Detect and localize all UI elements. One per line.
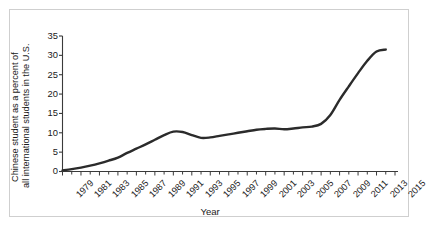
x-axis-tick-label: 2007: [332, 178, 354, 200]
x-axis-tick-label: 2011: [369, 178, 390, 199]
x-axis-tick-label: 1993: [203, 178, 225, 200]
x-axis-tick-label: 1997: [240, 178, 262, 200]
x-axis-tick-label: 2013: [388, 178, 410, 200]
x-axis-tick-label: 2001: [277, 178, 299, 200]
x-axis-tick-label: 1983: [110, 178, 132, 200]
x-axis-tick-label: 1995: [221, 178, 243, 200]
x-axis-tick-label: 1999: [258, 178, 280, 200]
x-axis-tick-label: 1987: [147, 178, 169, 200]
x-axis-tick-label: 2003: [295, 178, 317, 200]
x-axis-tick-label: 2015: [406, 178, 428, 200]
x-axis-tick-label: 1979: [73, 178, 95, 200]
x-axis-tick-label: 1991: [184, 178, 206, 200]
x-axis-tick-label: 1989: [166, 178, 188, 200]
x-axis-tick-label: 1985: [129, 178, 151, 200]
x-axis-tick-label: 2005: [314, 178, 336, 200]
x-axis-tick-label: 1981: [92, 178, 114, 200]
x-axis-tick-label: 2009: [351, 178, 373, 200]
x-axis-title: Year: [0, 206, 420, 217]
